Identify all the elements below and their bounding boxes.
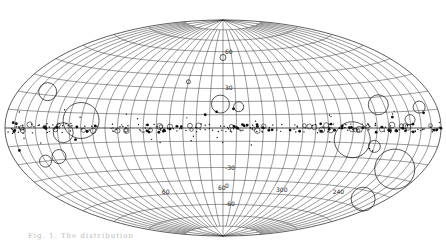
source-dot <box>205 125 206 126</box>
source-dot <box>200 129 201 130</box>
source-dot <box>329 141 330 142</box>
source-dot <box>267 129 270 132</box>
source-dot <box>16 126 17 127</box>
source-dot <box>18 149 21 152</box>
source-dot <box>276 129 277 130</box>
source-dot <box>113 131 114 132</box>
source-dot <box>159 142 160 143</box>
source-dot <box>233 128 234 129</box>
source-dot <box>415 130 416 131</box>
source-dot <box>241 123 244 126</box>
latitude-label: -60 <box>225 200 235 207</box>
source-ring <box>312 125 317 130</box>
latitude-label: 30 <box>225 84 233 91</box>
source-dot <box>412 131 415 134</box>
source-dot <box>225 131 226 132</box>
source-dot <box>140 130 141 131</box>
source-dot <box>204 113 207 116</box>
source-dot <box>218 131 219 132</box>
source-dot <box>294 124 295 125</box>
source-dot <box>91 126 92 127</box>
source-dot <box>368 129 369 130</box>
source-dot <box>112 127 113 128</box>
source-dot <box>209 128 210 129</box>
source-dot <box>40 142 41 143</box>
source-dot <box>417 129 418 130</box>
source-dot <box>69 126 70 127</box>
source-dot <box>251 144 252 145</box>
source-dot <box>223 126 224 127</box>
source-dot <box>49 131 50 132</box>
source-dot <box>122 126 123 127</box>
source-dot <box>49 126 50 127</box>
source-dot <box>143 131 144 132</box>
source-dot <box>389 128 390 129</box>
source-dot <box>432 129 433 130</box>
source-dot <box>228 128 229 129</box>
source-dot <box>295 131 296 132</box>
source-dot <box>176 130 177 131</box>
source-dot <box>262 131 263 132</box>
source-dot <box>293 129 294 130</box>
source-dot <box>137 118 138 119</box>
source-dot <box>281 124 282 125</box>
source-dot <box>212 130 213 131</box>
source-dot <box>94 125 97 128</box>
source-dot <box>440 127 443 130</box>
source-dot <box>70 130 71 131</box>
source-dot <box>271 128 274 131</box>
source-dot <box>398 129 399 130</box>
extended-source-circle <box>234 102 244 112</box>
source-dot <box>439 126 440 127</box>
source-dot <box>230 130 231 131</box>
source-dot <box>38 125 39 126</box>
source-dot <box>280 131 281 132</box>
figure-caption: Fig. 1. The distribution <box>28 232 134 240</box>
extended-source-circle <box>52 150 66 164</box>
source-ring <box>324 123 329 128</box>
source-ring <box>188 123 193 128</box>
source-dot <box>75 126 78 129</box>
source-dot <box>190 140 191 141</box>
source-dot <box>230 129 231 130</box>
latitude-label: -30 <box>225 164 235 171</box>
source-dot <box>256 123 259 126</box>
extended-source-circle <box>351 187 375 211</box>
source-dot <box>70 123 71 124</box>
source-dot <box>15 122 18 125</box>
extended-source-circle <box>368 95 388 115</box>
source-dot <box>385 127 386 128</box>
source-dot <box>319 122 322 125</box>
source-dot <box>84 126 85 127</box>
source-dot <box>121 124 122 125</box>
source-dot <box>242 129 243 130</box>
source-ring <box>81 128 85 132</box>
source-dot <box>12 133 13 134</box>
source-dot <box>119 126 120 127</box>
source-dot <box>410 131 411 132</box>
source-dot <box>227 127 228 128</box>
source-dot <box>250 127 251 128</box>
source-dot <box>375 131 378 134</box>
source-dot <box>303 131 304 132</box>
source-dot <box>23 138 24 139</box>
source-dot <box>204 129 205 130</box>
source-dot <box>79 116 80 117</box>
source-dot <box>252 125 253 126</box>
source-dot <box>436 128 439 131</box>
source-dot <box>89 129 90 130</box>
source-dot <box>193 136 194 137</box>
source-dot <box>391 116 394 119</box>
source-dot <box>71 125 72 126</box>
source-dot <box>86 132 87 133</box>
source-ring <box>303 124 307 128</box>
coordinate-grid <box>5 20 441 236</box>
source-dot <box>64 109 65 110</box>
source-ring <box>389 122 395 128</box>
source-dot <box>157 131 160 134</box>
sky-map: 6030-300-606060300240 <box>0 0 446 242</box>
source-dot <box>246 124 249 127</box>
source-dot <box>423 128 424 129</box>
source-dot <box>59 127 60 128</box>
source-dot <box>420 130 421 131</box>
